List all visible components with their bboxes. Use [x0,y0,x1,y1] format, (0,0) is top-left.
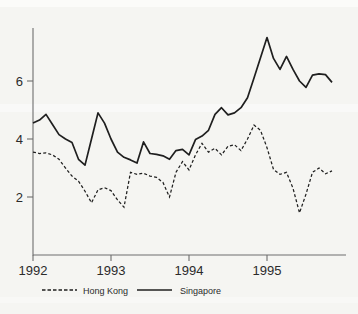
legend-singapore-label: Singapore [180,286,221,296]
hong-kong-line [33,125,332,213]
y-tick-label-2: 2 [16,190,23,205]
y-tick-label-4: 4 [16,132,23,147]
x-tick-label-1994: 1994 [175,263,204,278]
x-tick-label-1992: 1992 [19,263,48,278]
y-tick-label-6: 6 [16,74,23,89]
legend-hong-kong-label: Hong Kong [83,286,128,296]
scanned-chart-page: 6 4 2 1992 1993 1994 1995 Hong Kong Sing… [0,0,358,314]
legend: Hong Kong Singapore [42,286,221,296]
line-chart: 6 4 2 1992 1993 1994 1995 Hong Kong Sing… [0,0,358,314]
singapore-line [33,38,332,166]
x-tick-label-1995: 1995 [253,263,282,278]
x-tick-label-1993: 1993 [97,263,126,278]
